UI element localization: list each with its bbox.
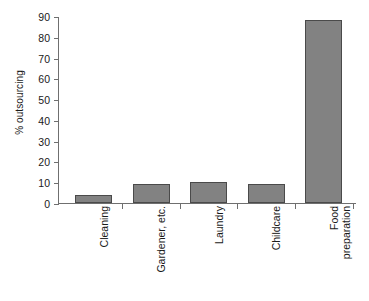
x-axis-category-label: Laundry (214, 206, 226, 298)
bar (75, 195, 112, 203)
y-axis-tick-label: 50 (26, 95, 50, 105)
y-axis-tick-mark (54, 17, 58, 18)
y-axis-tick-label: 30 (26, 137, 50, 147)
bar (133, 184, 170, 203)
y-axis-label: % outsourcing (14, 43, 25, 163)
bar (190, 182, 227, 203)
y-axis-tick-label: 60 (26, 74, 50, 84)
x-axis-category-label: Food preparation (329, 206, 352, 298)
y-axis-tick-mark (54, 100, 58, 101)
x-axis-category-label: Gardener, etc. (156, 206, 168, 298)
y-axis-tick-mark (54, 183, 58, 184)
x-axis-line (58, 203, 356, 204)
y-axis-tick-label: 40 (26, 116, 50, 126)
x-axis-category-label: Childcare (271, 206, 283, 298)
y-axis-tick-mark (54, 121, 58, 122)
y-axis-tick-labels: 0102030405060708090 (26, 0, 50, 301)
y-axis-line (58, 17, 59, 205)
y-axis-tick-mark (54, 142, 58, 143)
y-axis-tick-mark (54, 59, 58, 60)
y-axis-tick-label: 10 (26, 178, 50, 188)
y-axis-tick-mark (54, 162, 58, 163)
y-axis-tick-label: 90 (26, 12, 50, 22)
bar (305, 20, 342, 203)
y-axis-tick-mark (54, 204, 58, 205)
y-axis-tick-mark (54, 79, 58, 80)
bar-chart: % outsourcing 0102030405060708090 Cleani… (0, 0, 369, 301)
x-axis-category-labels: CleaningGardener, etc.LaundryChildcareFo… (58, 206, 356, 301)
y-axis-tick-label: 20 (26, 157, 50, 167)
y-axis-tick-label: 80 (26, 33, 50, 43)
y-axis-tick-label: 70 (26, 54, 50, 64)
plot-area (58, 17, 356, 204)
y-axis-tick-label: 0 (26, 199, 50, 209)
y-axis-tick-mark (54, 38, 58, 39)
bar (248, 184, 285, 203)
x-axis-category-label: Cleaning (99, 206, 111, 298)
